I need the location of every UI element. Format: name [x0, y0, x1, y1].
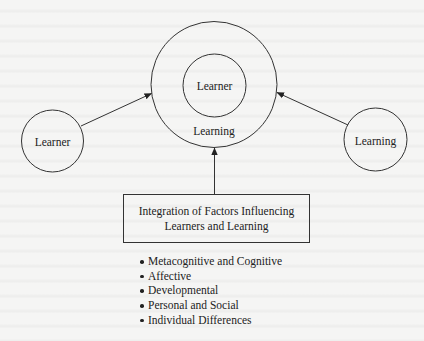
bullet-icon — [140, 319, 144, 323]
arrow-right-to-center — [277, 93, 348, 126]
right-node-label: Learning — [355, 134, 397, 148]
left-node-label: Learner — [35, 135, 71, 149]
factors-box-title-line2: Learners and Learning — [164, 219, 268, 234]
bullet-icon — [140, 289, 144, 293]
list-item: Developmental — [138, 283, 282, 298]
list-item: Personal and Social — [138, 298, 282, 313]
factors-box-title-line1: Integration of Factors Influencing — [139, 204, 295, 219]
list-item: Individual Differences — [138, 313, 282, 328]
factors-box: Integration of Factors Influencing Learn… — [123, 194, 310, 243]
center-outer-label: Learning — [193, 124, 235, 138]
factors-list: Metacognitive and Cognitive Affective De… — [138, 254, 282, 328]
list-item: Affective — [138, 269, 282, 284]
factor-label: Metacognitive and Cognitive — [148, 255, 282, 267]
bullet-icon — [140, 304, 144, 308]
bullet-icon — [140, 260, 144, 264]
factor-label: Affective — [148, 270, 191, 282]
factor-label: Developmental — [148, 284, 218, 296]
bullet-icon — [140, 275, 144, 279]
center-inner-label: Learner — [197, 79, 233, 93]
factor-label: Individual Differences — [148, 314, 252, 326]
factor-label: Personal and Social — [148, 299, 239, 311]
arrow-left-to-center — [81, 94, 152, 127]
list-item: Metacognitive and Cognitive — [138, 254, 282, 269]
learner-centered-diagram: Learner Learning Learner Learning Integr… — [0, 0, 424, 341]
